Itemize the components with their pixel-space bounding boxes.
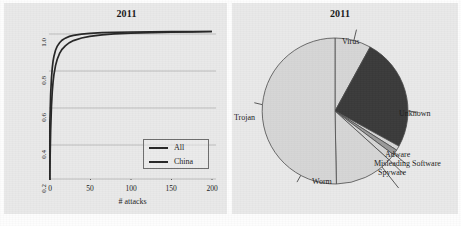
pie-plot-area: Virus Unknown Adware Misleading Software… [232, 0, 458, 214]
pie-label-adware: Adware [385, 150, 410, 159]
pie-leader-line [254, 103, 262, 105]
pie-label-worm: Worm [312, 177, 332, 186]
pie-slice-trojan[interactable] [262, 38, 336, 184]
legend-line-swatch-all [149, 147, 168, 149]
chart-legend[interactable]: All China [143, 139, 209, 169]
x-tick-label: 50 [77, 184, 103, 193]
y-tick-label: 0.6 [40, 113, 48, 122]
pie-chart-panel: 2011 Virus Unknown Adware Misleading Sof… [232, 0, 458, 214]
legend-label-china: China [174, 155, 193, 168]
pie-label-misleading-software: Misleading Software [374, 159, 441, 168]
x-tick-label: 200 [199, 184, 225, 193]
y-tick-label: 0.8 [40, 76, 48, 85]
page-margin-left [0, 0, 4, 226]
x-axis-label: # attacks [49, 197, 216, 206]
pie-label-unknown: Unknown [399, 109, 431, 118]
panel-divider [227, 3, 232, 214]
pie-svg [232, 0, 458, 214]
y-tick-label: 0.4 [40, 150, 48, 159]
x-tick-label: 100 [118, 184, 144, 193]
x-tick-label: 150 [158, 184, 184, 193]
pie-label-virus: Virus [342, 37, 359, 46]
legend-label-all: All [174, 141, 184, 154]
page-margin-bottom [0, 214, 461, 226]
pie-leader-line [297, 175, 301, 182]
line-chart-title: 2011 [4, 8, 227, 19]
y-tick-label: 1.0 [40, 38, 48, 47]
x-tick-label: 0 [37, 184, 63, 193]
pie-label-spyware: Spyware [378, 168, 406, 177]
legend-item-all[interactable]: All [144, 141, 208, 154]
figure-container: 2011 % hosts with <= x attacks 1.0 0.8 0… [0, 0, 461, 226]
pie-label-trojan: Trojan [234, 113, 255, 122]
line-chart-panel: 2011 % hosts with <= x attacks 1.0 0.8 0… [4, 0, 227, 214]
y-tick-label-group: 1.0 0.8 0.6 0.4 0.2 [30, 28, 46, 180]
y-axis-label-wrapper: % hosts with <= x attacks [13, 28, 25, 180]
legend-item-china[interactable]: China [144, 155, 208, 168]
legend-line-swatch-china [149, 161, 168, 163]
